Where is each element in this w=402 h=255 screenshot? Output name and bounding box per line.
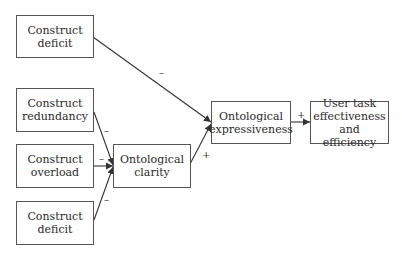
node-label: deficit [27,223,82,236]
node-label: effectiveness [311,110,388,123]
edge-deficit-top-to-expressiveness [93,37,211,122]
node-label: clarity [120,166,184,179]
node-label: Construct [27,210,82,223]
node-label: overload [27,166,82,179]
sign-deficit-top: – [159,68,164,78]
node-label: Ontological [209,110,293,123]
node-label: User task [311,97,388,110]
node-label: redundancy [22,110,88,123]
node-construct-redundancy: Constructredundancy [16,88,94,132]
node-ontological-clarity: Ontologicalclarity [113,144,191,188]
node-ontological-expressiveness: Ontologicalexpressiveness [211,101,291,144]
sign-overload: – [99,154,104,164]
node-label: expressiveness [209,123,293,136]
node-construct-overload: Constructoverload [16,144,94,188]
node-label: and efficiency [311,123,388,149]
node-label: Ontological [120,153,184,166]
node-user-task: User taskeffectivenessand efficiency [310,101,389,144]
node-label: Construct [22,97,88,110]
node-construct-deficit-top: Constructdeficit [16,15,94,58]
sign-expressiveness-to-user-task: + [297,110,305,120]
node-construct-deficit-bottom: Constructdeficit [16,201,94,245]
node-label: Construct [27,24,82,37]
sign-clarity-to-expressiveness: + [202,150,210,160]
node-label: deficit [27,37,82,50]
sign-redundancy: – [104,126,109,136]
sign-deficit-bottom: – [104,195,109,205]
node-label: Construct [27,153,82,166]
